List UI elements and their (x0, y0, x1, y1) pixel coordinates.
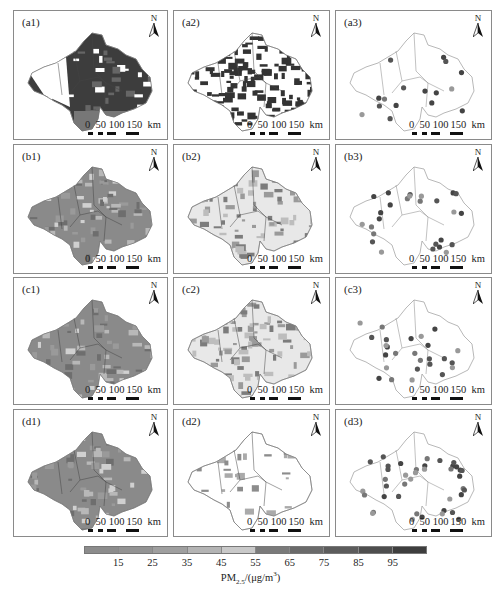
map-panel-b2: (b2)N0 50 100 150 km (173, 144, 330, 274)
colorbar-segment (324, 547, 358, 553)
scale-bar: 0 50 100 150 km (247, 516, 323, 527)
scale-bar: 0 50 100 150 km (409, 119, 485, 130)
map-panel-d1: (d1)N0 50 100 150 km (13, 409, 168, 537)
colorbar-segment (119, 547, 153, 553)
panel-label: (b1) (22, 150, 40, 162)
scale-bar: 0 50 100 150 km (85, 253, 161, 264)
scale-bar: 0 50 100 150 km (85, 384, 161, 395)
north-arrow-icon: N (147, 281, 161, 304)
scale-bar: 0 50 100 150 km (409, 516, 485, 527)
colorbar-segment (222, 547, 256, 553)
colorbar-segment (359, 547, 393, 553)
colorbar-tick: 65 (285, 557, 296, 568)
colorbar-tick: 85 (353, 557, 364, 568)
scale-bar: 0 50 100 150 km (409, 384, 485, 395)
north-arrow-icon: N (471, 413, 485, 436)
north-arrow-icon: N (309, 148, 323, 171)
map-panel-a1: (a1)N0 50 100 150 km (13, 10, 168, 140)
colorbar (84, 546, 427, 554)
colorbar-segment (393, 547, 426, 553)
scale-bar: 0 50 100 150 km (85, 516, 161, 527)
north-arrow-icon: N (309, 413, 323, 436)
map-panel-a3: (a3)N0 50 100 150 km (335, 10, 492, 140)
panel-label: (a1) (22, 16, 40, 28)
scale-bar: 0 50 100 150 km (409, 253, 485, 264)
colorbar-segment (188, 547, 222, 553)
panel-label: (c1) (22, 283, 40, 295)
colorbar-tick: 35 (182, 557, 193, 568)
colorbar-tick: 55 (250, 557, 261, 568)
north-arrow-icon: N (471, 148, 485, 171)
north-arrow-icon: N (471, 281, 485, 304)
panel-label: (c3) (344, 283, 362, 295)
panel-label: (a3) (344, 16, 362, 28)
north-arrow-icon: N (309, 14, 323, 37)
colorbar-segment (153, 547, 187, 553)
panel-label: (b2) (182, 150, 200, 162)
colorbar-tick: 95 (387, 557, 398, 568)
north-arrow-icon: N (147, 14, 161, 37)
scale-bar: 0 50 100 150 km (247, 119, 323, 130)
panel-label: (d3) (344, 415, 362, 427)
north-arrow-icon: N (309, 281, 323, 304)
scale-bar: 0 50 100 150 km (85, 119, 161, 130)
colorbar-tick: 25 (147, 557, 158, 568)
north-arrow-icon: N (471, 14, 485, 37)
map-panel-a2: (a2)N0 50 100 150 km (173, 10, 330, 140)
map-panel-c1: (c1)N0 50 100 150 km (13, 277, 168, 405)
colorbar-tick: 75 (319, 557, 330, 568)
scale-bar: 0 50 100 150 km (247, 384, 323, 395)
panel-label: (a2) (182, 16, 200, 28)
colorbar-segment (85, 547, 119, 553)
colorbar-segment (290, 547, 324, 553)
map-panel-d2: (d2)N0 50 100 150 km (173, 409, 330, 537)
map-panel-c3: (c3)N0 50 100 150 km (335, 277, 492, 405)
map-panel-d3: (d3)N0 50 100 150 km (335, 409, 492, 537)
map-panel-c2: (c2)N0 50 100 150 km (173, 277, 330, 405)
map-panel-b3: (b3)N0 50 100 150 km (335, 144, 492, 274)
map-panel-b1: (b1)N0 50 100 150 km (13, 144, 168, 274)
panel-label: (d1) (22, 415, 40, 427)
panel-label: (c2) (182, 283, 200, 295)
colorbar-title: PM2.5/(μg/m3) (0, 570, 501, 586)
north-arrow-icon: N (147, 148, 161, 171)
colorbar-tick: 45 (216, 557, 227, 568)
colorbar-tick: 15 (113, 557, 124, 568)
colorbar-segment (256, 547, 290, 553)
panel-label: (b3) (344, 150, 362, 162)
scale-bar: 0 50 100 150 km (247, 253, 323, 264)
north-arrow-icon: N (147, 413, 161, 436)
panel-label: (d2) (182, 415, 200, 427)
